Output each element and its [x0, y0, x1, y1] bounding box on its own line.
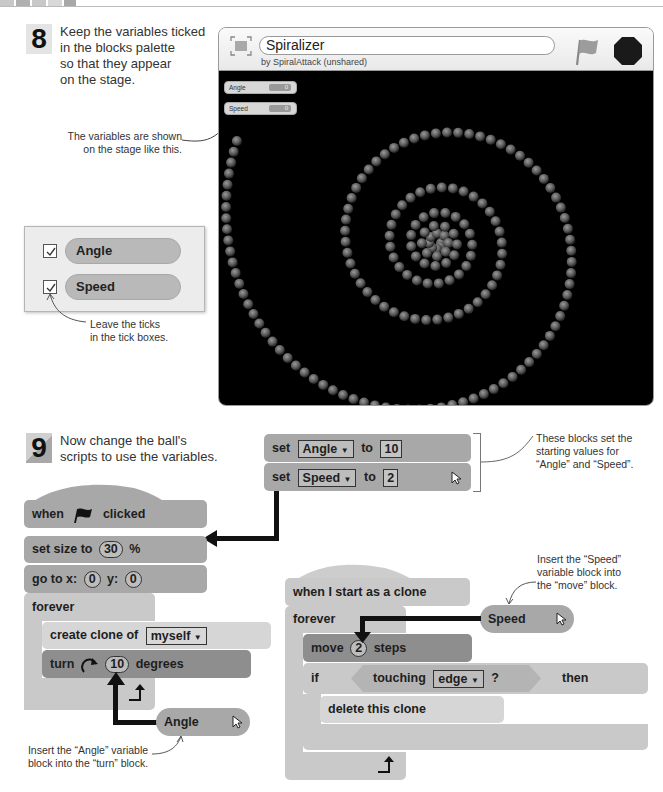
project-title-field[interactable]: Spiralizer [259, 36, 555, 55]
variable-reporter-angle[interactable]: Angle [156, 708, 250, 736]
variable-reporter-speed[interactable]: Speed [480, 605, 574, 633]
ball-sprite [469, 192, 479, 202]
block-keyword: forever [293, 612, 335, 626]
ball-sprite [328, 385, 338, 395]
variable-dropdown[interactable]: Angle ▼ [298, 440, 354, 458]
ball-sprite [415, 187, 425, 197]
value-input[interactable]: 2 [383, 469, 398, 487]
insert-arrow [113, 682, 118, 724]
set-angle-block[interactable]: set Angle ▼ to 10 [264, 434, 471, 462]
page-top-strip [0, 0, 663, 7]
dropdown-arrow-icon: ▼ [471, 676, 479, 685]
ball-sprite [467, 240, 477, 250]
green-flag-icon[interactable] [571, 36, 601, 66]
ball-sprite [225, 246, 235, 256]
ball-sprite [254, 319, 264, 329]
if-block-bottom [303, 724, 648, 750]
value-input[interactable]: 10 [380, 440, 402, 458]
ball-sprite [283, 353, 293, 363]
clone-target-dropdown[interactable]: myself ▼ [146, 627, 207, 645]
touching-edge-condition[interactable]: touching edge ▼ ? [351, 665, 541, 692]
cursor-icon [232, 715, 244, 729]
ball-sprite [426, 184, 436, 194]
cursor-icon [556, 612, 568, 626]
checkbox-angle[interactable] [43, 244, 57, 258]
ball-sprite [385, 231, 395, 241]
block-keyword: to [364, 470, 376, 484]
ball-sprite [539, 340, 549, 350]
ball-sprite [371, 156, 381, 166]
variable-dropdown[interactable]: Speed ▼ [298, 469, 357, 487]
ball-sprite [498, 378, 508, 388]
ball-sprite [232, 136, 242, 146]
value-input[interactable]: 30 [99, 541, 123, 558]
turn-block[interactable]: turn 10 degrees [42, 650, 251, 678]
go-to-xy-block[interactable]: go to x: 0 y: 0 [24, 565, 207, 593]
ball-sprite [449, 229, 459, 239]
ball-sprite [249, 309, 259, 319]
ball-sprite [422, 248, 432, 258]
forever-block-bottom [285, 752, 406, 780]
touching-target-dropdown[interactable]: edge ▼ [433, 670, 484, 688]
forever-block[interactable]: forever [24, 593, 155, 621]
monitor-value: 0 [269, 105, 291, 112]
bracket [473, 433, 481, 492]
delete-clone-block[interactable]: delete this clone [320, 696, 504, 723]
ball-sprite [340, 226, 350, 236]
block-keyword: y: [107, 572, 118, 586]
ball-sprite [389, 143, 399, 153]
ball-sprite [496, 139, 506, 149]
ball-sprite [440, 208, 450, 218]
ball-sprite [221, 202, 231, 212]
y-input[interactable]: 0 [125, 571, 142, 588]
x-input[interactable]: 0 [84, 571, 101, 588]
monitor-label: Speed [229, 105, 248, 112]
ball-sprite [389, 253, 399, 263]
set-speed-block[interactable]: set Speed ▼ to 2 [264, 463, 471, 491]
arrowhead-icon [354, 632, 372, 644]
when-flag-clicked-block[interactable]: when clicked [24, 500, 207, 528]
dropdown-value: Speed [303, 471, 341, 485]
when-start-as-clone-block[interactable]: when I start as a clone [285, 578, 470, 606]
block-keyword: turn [50, 657, 74, 671]
ball-sprite [342, 248, 352, 258]
block-keyword: if [311, 671, 319, 685]
stage-canvas[interactable]: Angle 0 Speed 0 [219, 71, 653, 406]
caption-line: in the tick boxes. [90, 331, 168, 344]
ball-sprite [412, 276, 422, 286]
variable-monitor-speed[interactable]: Speed 0 [224, 102, 297, 115]
block-keyword: steps [374, 641, 407, 655]
ball-sprite [231, 268, 241, 278]
ball-sprite [550, 321, 560, 331]
if-then-block[interactable]: if touching edge ▼ ? then [303, 663, 648, 694]
ball-sprite [551, 193, 561, 203]
variable-monitor-angle[interactable]: Angle 0 [224, 81, 297, 94]
stop-icon[interactable] [613, 36, 643, 66]
ball-sprite [492, 270, 502, 280]
green-flag-icon [73, 507, 93, 523]
variable-block-angle[interactable]: Angle [65, 238, 181, 264]
caption-stage-variables: The variables are shown on the stage lik… [66, 130, 182, 156]
ball-sprite [441, 247, 451, 257]
ball-sprite [239, 289, 249, 299]
fullscreen-icon[interactable] [230, 36, 252, 56]
insert-arrow [360, 616, 481, 621]
block-keyword: Angle [164, 715, 199, 729]
caption-insert-speed: Insert the “Speed” variable block into t… [537, 553, 621, 592]
ball-sprite [442, 128, 452, 138]
ball-sprite [379, 302, 389, 312]
ball-sprite [268, 337, 278, 347]
value-input[interactable]: 10 [105, 656, 129, 673]
ball-sprite [489, 384, 499, 394]
set-size-block[interactable]: set size to 30 % [24, 536, 207, 563]
block-keyword: to [361, 441, 373, 455]
caption-line: variable block into [537, 566, 621, 579]
ball-sprite [409, 134, 419, 144]
ball-sprite [434, 278, 444, 288]
ball-sprite [565, 235, 575, 245]
ball-sprite [347, 193, 357, 203]
block-keyword: set size to [32, 542, 92, 556]
move-steps-block[interactable]: move 2 steps [303, 634, 472, 662]
create-clone-block[interactable]: create clone of myself ▼ [42, 622, 271, 649]
ball-sprite [275, 345, 285, 355]
